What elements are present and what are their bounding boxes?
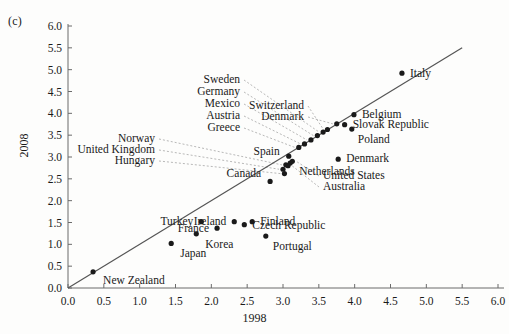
y-tick-label: 3.5	[22, 129, 62, 141]
x-tick-label: 1.0	[132, 295, 146, 307]
data-point-label: Japan	[180, 249, 206, 261]
x-tick-label: 0.5	[97, 295, 111, 307]
data-point-label: Austria	[206, 110, 240, 122]
x-tick-label: 0.0	[61, 295, 75, 307]
x-tick-label: 2.5	[240, 295, 254, 307]
x-tick-label: 5.0	[419, 295, 433, 307]
scatter-plot-figure: (c) 2008 1998 0.00.51.01.52.02.53.03.54.…	[0, 0, 509, 334]
y-tick-label: 4.0	[22, 107, 62, 119]
data-point-label: United Kingdom	[77, 144, 155, 156]
data-point-label: Belgium	[362, 109, 402, 121]
data-point-label: Canada	[227, 169, 261, 181]
data-point-label: Mexico	[205, 98, 240, 110]
reference-line-45deg	[68, 48, 462, 288]
panel-tag: (c)	[8, 14, 22, 29]
data-point-label: Finland	[260, 216, 295, 228]
data-point-label: Sweden	[204, 74, 240, 86]
data-point-label: Slovak Republic	[353, 119, 429, 131]
y-tick-label: 3.0	[22, 151, 62, 163]
data-point-label: Ireland	[194, 216, 227, 228]
x-tick-label: 5.5	[455, 295, 469, 307]
x-axis-title: 1998	[0, 311, 509, 326]
y-tick-label: 5.0	[22, 64, 62, 76]
y-tick-label: 5.5	[22, 42, 62, 54]
data-point-label: Norway	[118, 133, 155, 145]
x-tick-label: 3.5	[312, 295, 326, 307]
x-tick-label: 2.0	[204, 295, 218, 307]
x-tick-label: 3.0	[276, 295, 290, 307]
data-point-label: Spain	[254, 146, 280, 158]
data-point-label: Korea	[205, 239, 233, 251]
y-tick-label: 4.5	[22, 86, 62, 98]
y-tick-label: 2.0	[22, 195, 62, 207]
data-point-label: Australia	[323, 181, 365, 193]
y-tick-label: 2.5	[22, 173, 62, 185]
data-point-label: Denmark	[261, 111, 304, 123]
y-tick-label: 6.0	[22, 20, 62, 32]
data-point-label: Greece	[207, 122, 240, 134]
data-point-label: New Zealand	[103, 275, 165, 287]
x-tick-label: 4.0	[347, 295, 361, 307]
data-point-label: Poland	[358, 134, 390, 146]
y-tick-label: 1.5	[22, 217, 62, 229]
y-axis-title: 2008	[17, 116, 32, 176]
data-point-label: Portugal	[273, 241, 312, 253]
x-tick-label: 6.0	[491, 295, 505, 307]
data-point-label: Hungary	[115, 155, 155, 167]
data-point-label: Denmark	[346, 153, 389, 165]
data-point-label: Germany	[197, 86, 240, 98]
x-tick-label: 4.5	[383, 295, 397, 307]
y-tick-label: 1.0	[22, 238, 62, 250]
x-tick-label: 1.5	[168, 295, 182, 307]
y-tick-label: 0.0	[22, 282, 62, 294]
y-tick-label: 0.5	[22, 260, 62, 272]
data-point-label: Italy	[410, 68, 431, 80]
